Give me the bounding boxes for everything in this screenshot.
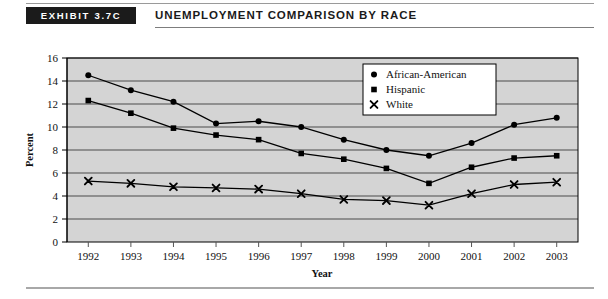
x-axis: 1992199319941995199619971998199920002001…	[77, 242, 568, 262]
data-point-marker	[298, 124, 304, 130]
legend-marker-square	[371, 87, 377, 93]
page-title: UNEMPLOYMENT COMPARISON BY RACE	[155, 7, 417, 23]
x-axis-tick-label: 1999	[375, 250, 398, 262]
y-axis-tick-label: 8	[53, 144, 59, 156]
y-axis-tick-label: 14	[47, 75, 59, 87]
footer-rule	[26, 287, 594, 289]
data-point-marker	[213, 132, 219, 138]
y-axis-tick-label: 4	[53, 190, 59, 202]
data-point-marker	[511, 155, 517, 161]
header-top-rule	[26, 3, 594, 4]
y-axis-tick-label: 6	[53, 167, 59, 179]
data-point-marker	[298, 151, 304, 157]
exhibit-badge: EXHIBIT 3.7C	[26, 7, 136, 24]
data-point-marker	[256, 137, 262, 143]
data-point-marker	[256, 118, 262, 124]
chart-canvas: 0246810121416 19921993199419951996199719…	[0, 40, 608, 285]
y-axis-tick-label: 16	[47, 52, 59, 64]
data-point-marker	[128, 87, 134, 93]
data-point-marker	[511, 122, 517, 128]
data-point-marker	[213, 121, 219, 127]
data-point-marker	[341, 156, 347, 162]
header-bottom-rule	[155, 27, 594, 28]
x-axis-tick-label: 1998	[333, 250, 356, 262]
data-point-marker	[171, 125, 177, 131]
y-axis-tick-label: 2	[53, 213, 59, 225]
data-point-marker	[341, 137, 347, 143]
x-axis-tick-label: 1993	[120, 250, 143, 262]
y-axis-title: Percent	[24, 132, 35, 167]
exhibit-header: EXHIBIT 3.7C UNEMPLOYMENT COMPARISON BY …	[0, 0, 608, 40]
y-axis: 0246810121416	[47, 52, 67, 248]
y-axis-tick-label: 10	[47, 121, 59, 133]
data-point-marker	[426, 153, 432, 159]
data-point-marker	[384, 166, 390, 172]
x-axis-tick-label: 2000	[418, 250, 441, 262]
legend-label: Hispanic	[386, 83, 425, 95]
data-point-marker	[554, 115, 560, 121]
y-axis-tick-label: 0	[53, 236, 59, 248]
data-point-marker	[469, 164, 475, 170]
x-axis-tick-label: 2001	[461, 250, 483, 262]
x-axis-tick-label: 1995	[205, 250, 228, 262]
legend-label: African-American	[386, 68, 467, 80]
chart-legend: African-AmericanHispanicWhite	[363, 64, 496, 115]
data-point-marker	[469, 140, 475, 146]
x-axis-tick-label: 1997	[290, 250, 313, 262]
data-point-marker	[426, 181, 432, 187]
x-axis-tick-label: 2003	[546, 250, 569, 262]
x-axis-title: Year	[312, 268, 333, 279]
unemployment-line-chart: 0246810121416 19921993199419951996199719…	[0, 40, 608, 285]
data-point-marker	[85, 72, 91, 78]
x-axis-tick-label: 1994	[162, 250, 185, 262]
x-axis-tick-label: 1996	[248, 250, 271, 262]
legend-label: White	[386, 98, 413, 110]
x-axis-tick-label: 1992	[77, 250, 99, 262]
x-axis-tick-label: 2002	[503, 250, 525, 262]
data-point-marker	[383, 147, 389, 153]
data-point-marker	[170, 99, 176, 105]
legend-marker-circle	[371, 72, 377, 78]
data-point-marker	[85, 98, 91, 104]
data-point-marker	[128, 110, 134, 116]
data-point-marker	[554, 153, 560, 159]
y-axis-tick-label: 12	[47, 98, 58, 110]
